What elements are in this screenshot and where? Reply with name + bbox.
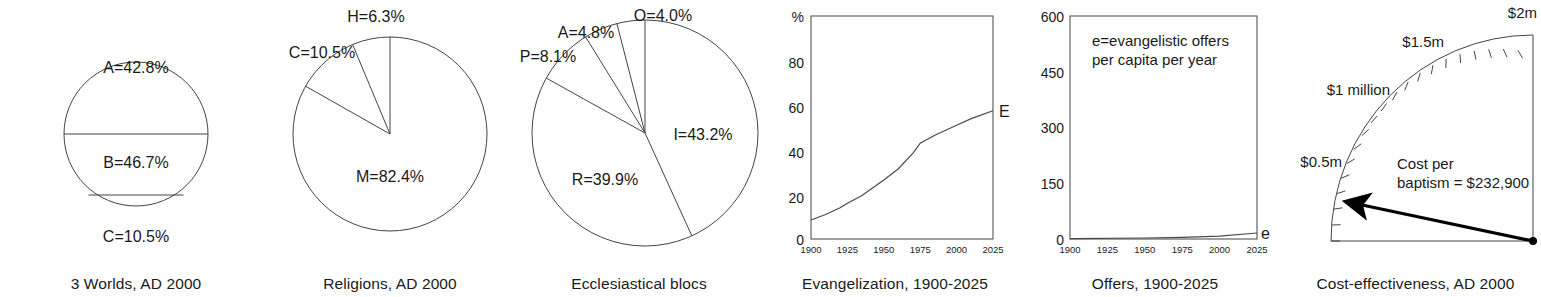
label-m: M=82.4% [356,168,424,185]
ytick-40: 40 [788,145,804,161]
gauge-tick-label-1m: $1 million [1327,81,1390,98]
xtick-2025: 2025 [1246,244,1267,255]
slice-edge-p-a [586,37,645,133]
ytick-unit: % [792,9,804,25]
gauge-tick-label-2m: $2m [1508,4,1537,21]
gauge-arc [1331,35,1533,241]
plot-frame [1070,16,1257,239]
slice-edge-a-o [617,24,645,134]
ytick-20: 20 [788,190,804,206]
ecclesiastical-blocs-chart: I=43.2% R=39.9% P=8.1% A=4.8% O=4.0% [508,0,770,297]
panel-cost-effectiveness: $2m $1.5m $1 million $0.5m Cost per bapt… [1290,0,1541,297]
caption-evangelization: Evangelization, 1900-2025 [770,275,1020,293]
label-i: I=43.2% [673,126,732,143]
cost-effectiveness-gauge: $2m $1.5m $1 million $0.5m Cost per bapt… [1290,0,1541,297]
caption-offers: Offers, 1900-2025 [1020,275,1290,293]
ytick-300: 300 [1041,120,1065,136]
gauge-tick-label-0-5m: $0.5m [1300,153,1342,170]
xtick-1950: 1950 [1134,244,1155,255]
figure-strip: A=42.8% B=46.7% C=10.5% 3 Worlds, AD 200… [0,0,1541,297]
gauge-needle [1348,202,1533,241]
label-o: O=4.0% [634,7,692,24]
gauge-tick-label-1-5m: $1.5m [1402,33,1444,50]
xtick-1975: 1975 [910,244,931,255]
gauge-ticks [1331,49,1523,241]
slice-edge-c-m [306,86,390,134]
ytick-60: 60 [788,100,804,116]
slice-edge-i-r [645,133,692,236]
series-label-e: E [999,103,1010,120]
xtick-1925: 1925 [1097,244,1118,255]
xtick-1950: 1950 [873,244,894,255]
xtick-2025: 2025 [982,244,1003,255]
slice-edge-h-c [353,45,390,135]
xtick-1925: 1925 [837,244,858,255]
gauge-pivot [1529,237,1537,245]
xtick-2000: 2000 [946,244,967,255]
evangelization-chart: % 80 60 40 20 0 1900 1925 1950 1975 2000… [770,0,1020,297]
xtick-1900: 1900 [800,244,821,255]
offers-note-line1: e=evangelistic offers [1092,32,1229,49]
religions-chart: M=82.4% H=6.3% C=10.5% [272,0,508,297]
series-e-line [811,111,993,220]
caption-religions: Religions, AD 2000 [272,275,508,293]
offers-chart: 600 450 300 150 0 1900 1925 1950 1975 20… [1020,0,1290,297]
panel-religions: M=82.4% H=6.3% C=10.5% Religions, AD 200… [272,0,508,297]
plot-frame [811,16,993,239]
caption-ecclesiastical-blocs: Ecclesiastical blocs [508,275,770,293]
gauge-note-line2: baptism = $232,900 [1397,174,1529,191]
xtick-2000: 2000 [1209,244,1230,255]
xtick-1900: 1900 [1059,244,1080,255]
label-p: P=8.1% [520,48,576,65]
slice-edge-r-p [546,78,645,133]
label-a: A=4.8% [558,24,614,41]
series-label-e: e [1261,225,1270,242]
offers-note-line2: per capita per year [1092,51,1217,68]
gauge-note-line1: Cost per [1397,155,1454,172]
caption-cost-effectiveness: Cost-effectiveness, AD 2000 [1290,275,1541,293]
label-h: H=6.3% [347,8,404,25]
series-e-line [1070,233,1257,239]
ytick-80: 80 [788,55,804,71]
ytick-150: 150 [1041,176,1065,192]
label-c: C=10.5% [103,228,169,245]
label-a: A=42.8% [103,59,168,76]
caption-three-worlds: 3 Worlds, AD 2000 [0,275,272,293]
ytick-600: 600 [1041,9,1065,25]
panel-evangelization: % 80 60 40 20 0 1900 1925 1950 1975 2000… [770,0,1020,297]
panel-ecclesiastical-blocs: I=43.2% R=39.9% P=8.1% A=4.8% O=4.0% Ecc… [508,0,770,297]
label-r: R=39.9% [572,171,638,188]
ytick-450: 450 [1041,65,1065,81]
panel-offers: 600 450 300 150 0 1900 1925 1950 1975 20… [1020,0,1290,297]
label-c: C=10.5% [289,44,355,61]
xtick-1975: 1975 [1172,244,1193,255]
three-worlds-chart: A=42.8% B=46.7% C=10.5% [0,0,272,297]
label-b: B=46.7% [103,154,168,171]
panel-three-worlds: A=42.8% B=46.7% C=10.5% 3 Worlds, AD 200… [0,0,272,297]
